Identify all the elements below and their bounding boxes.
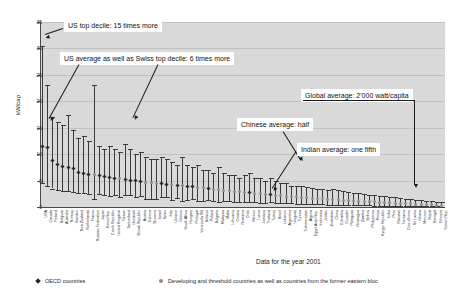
- average-marker: [268, 193, 272, 197]
- country-data-column: [337, 22, 341, 207]
- x-axis-tick-label: Belgium: [60, 210, 64, 223]
- country-data-column: [420, 22, 424, 207]
- average-marker: [191, 185, 195, 189]
- upper-decile-cap: [284, 183, 289, 184]
- country-data-column: [165, 22, 169, 207]
- x-axis-tick-label: Lebanon: [283, 210, 287, 224]
- annotation-us-top-decile: US top decile: 15 times more: [64, 19, 162, 32]
- chart-caption: Data for the year 2001: [256, 258, 321, 265]
- country-data-column: [414, 22, 418, 207]
- average-marker: [175, 183, 179, 187]
- decile-range-bar: [47, 85, 48, 185]
- x-axis-tick-label: Israel: [158, 210, 162, 219]
- upper-decile-cap: [185, 165, 190, 166]
- decile-range-bar: [171, 162, 172, 200]
- legend-item-developing: Developing and threshold countries as we…: [159, 278, 378, 284]
- country-data-column: [87, 22, 91, 207]
- average-marker: [222, 189, 225, 192]
- upper-decile-cap: [170, 162, 175, 163]
- average-marker: [185, 184, 189, 188]
- upper-decile-cap: [222, 173, 227, 174]
- country-data-column: [300, 22, 304, 207]
- annotation-chinese-average: Chinese average: half: [237, 118, 313, 131]
- decile-range-bar: [161, 157, 162, 198]
- x-axis-tick-label: Brazil: [278, 210, 282, 219]
- x-axis-tick-label: Sweden: [75, 210, 79, 223]
- x-axis-tick-label: Korea Rep.: [106, 210, 110, 228]
- country-data-column: [430, 22, 434, 207]
- average-marker: [248, 191, 252, 195]
- lower-decile-cap: [170, 200, 175, 201]
- lower-decile-cap: [165, 197, 170, 198]
- country-data-column: [150, 22, 154, 207]
- x-axis-tick-label: Senegal: [433, 210, 437, 223]
- upper-decile-cap: [175, 165, 180, 166]
- lower-decile-cap: [191, 199, 196, 200]
- diamond-marker-icon: [35, 278, 41, 284]
- country-data-column: [373, 22, 377, 207]
- lower-decile-cap: [175, 198, 180, 199]
- lower-decile-cap: [118, 197, 123, 198]
- country-data-column: [98, 22, 102, 207]
- country-data-column: [103, 22, 107, 207]
- x-axis-tick-label: Hungary: [189, 210, 193, 224]
- average-marker: [399, 202, 402, 205]
- country-data-column: [170, 22, 174, 207]
- x-axis-tick-label: Slovak Republic: [137, 210, 141, 236]
- decile-range-bar: [244, 175, 245, 202]
- country-data-column: [352, 22, 356, 207]
- upper-decile-cap: [269, 178, 274, 179]
- x-axis-tick-label: Malaysia: [221, 210, 225, 224]
- average-marker: [363, 200, 366, 203]
- country-data-column: [259, 22, 263, 207]
- y-axis-tick-mark: [37, 75, 40, 76]
- upper-decile-cap: [134, 154, 139, 155]
- decile-range-bar: [203, 170, 204, 201]
- average-marker: [300, 196, 303, 199]
- y-axis-tick-mark: [37, 154, 40, 155]
- decile-range-bar: [119, 152, 120, 197]
- upper-decile-cap: [154, 159, 159, 160]
- x-axis-tick-label: Spain: [163, 210, 167, 219]
- country-data-column: [139, 22, 143, 207]
- lower-decile-cap: [45, 186, 50, 187]
- lower-decile-cap: [108, 196, 113, 197]
- x-axis-tick-label: Portugal: [195, 210, 199, 223]
- decile-range-bar: [52, 117, 53, 188]
- country-data-column: [222, 22, 226, 207]
- x-axis-tick-label: Zambia: [361, 210, 365, 222]
- x-axis-tick-label: United Kingdom: [117, 210, 121, 236]
- country-data-column: [176, 22, 180, 207]
- country-data-column: [77, 22, 81, 207]
- x-axis-tick-label: France: [91, 210, 95, 221]
- x-axis-tick-label: Japan: [101, 210, 105, 220]
- average-marker: [337, 198, 340, 201]
- upper-decile-cap: [97, 146, 102, 147]
- x-axis-tick-label: Belarus: [205, 210, 209, 222]
- country-data-column: [108, 22, 112, 207]
- lower-decile-cap: [128, 195, 133, 196]
- x-axis-tick-label: China: [335, 210, 339, 219]
- average-marker: [87, 172, 91, 176]
- lower-decile-cap: [40, 183, 45, 184]
- country-data-column: [368, 22, 372, 207]
- decile-range-bar: [78, 138, 79, 192]
- average-marker: [212, 188, 215, 191]
- x-axis-tick-label: Colombia: [340, 210, 344, 225]
- decile-range-bar: [109, 146, 110, 196]
- upper-decile-cap: [217, 167, 222, 168]
- decile-range-bar: [94, 85, 95, 198]
- average-marker: [404, 202, 407, 205]
- x-axis-tick-label: Malta: [226, 210, 230, 219]
- x-axis-tick-label: USA: [44, 210, 48, 217]
- x-axis-tick-label: Tunisia: [298, 210, 302, 221]
- country-data-column: [321, 22, 325, 207]
- lower-decile-cap: [180, 201, 185, 202]
- x-axis-tick-label: Switzerland: [127, 210, 131, 229]
- upper-decile-cap: [113, 149, 118, 150]
- decile-range-bar: [223, 173, 224, 201]
- leader-global-average-horizontal: [303, 100, 415, 101]
- decile-range-bar: [177, 165, 178, 198]
- average-marker: [233, 190, 236, 193]
- x-axis-tick-label: Turkey: [272, 210, 276, 221]
